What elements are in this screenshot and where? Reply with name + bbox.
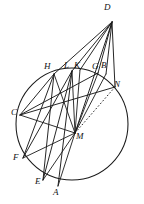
segment-M-to-H [54, 74, 75, 133]
vertex-label-a: A [53, 188, 59, 197]
vertex-label-l: L [64, 61, 69, 70]
segment-chord-C-to-G [20, 73, 98, 115]
segment-chord-E-to-L [43, 71, 72, 180]
segment-M-to-A [58, 133, 75, 186]
segment-group [20, 22, 115, 186]
vertex-label-b: B [101, 61, 107, 70]
vertex-label-e: E [35, 177, 41, 186]
geometry-figure: DHLKGBNCMFEA [0, 0, 144, 204]
vertex-label-f: F [13, 153, 19, 162]
segment-D-to-N [112, 22, 115, 87]
segment-M-to-G [75, 73, 98, 133]
vertex-label-c: C [11, 108, 17, 117]
vertex-label-d: D [104, 3, 111, 12]
segment-chord-F-to-L [23, 71, 72, 158]
segment-M-to-E [43, 133, 75, 180]
vertex-label-g: G [92, 62, 99, 71]
vertex-label-h: H [44, 62, 51, 71]
vertex-label-k: K [74, 61, 80, 70]
figure-canvas [0, 0, 144, 204]
vertex-label-m: M [76, 132, 84, 141]
segment-M-to-K [75, 70, 80, 133]
segment-M-to-L [72, 71, 75, 133]
segment-M-to-N-dotted [75, 87, 115, 133]
vertex-label-n: N [114, 80, 120, 89]
